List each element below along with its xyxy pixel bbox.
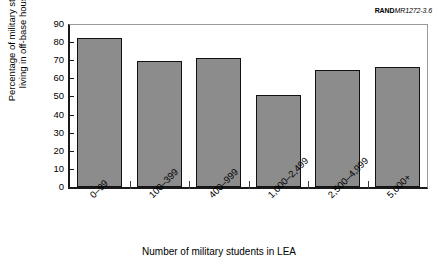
y-axis-tick-label: 30 [40, 128, 64, 138]
x-axis-tick-mark [189, 181, 190, 189]
x-axis-tick-mark [308, 181, 309, 189]
rand-figure-id-number: MR1272-3.6 [394, 7, 432, 14]
bar [77, 38, 122, 187]
y-axis-tick-label: 60 [40, 74, 64, 84]
bar-slot [130, 24, 190, 187]
y-axis-tick-label: 20 [40, 146, 64, 156]
y-axis-tick-label: 70 [40, 55, 64, 65]
y-axis-title: Percentage of military students living i… [0, 0, 34, 122]
bar-slot [189, 24, 249, 187]
bar-chart-figure: RANDMR1272-3.6 Percentage of military st… [0, 0, 438, 264]
x-axis-tick-mark [368, 181, 369, 189]
rand-figure-id-mark: RAND [375, 7, 395, 14]
y-axis-title-line-1: Percentage of military students [6, 0, 18, 101]
y-axis-tick-label: 40 [40, 110, 64, 120]
y-axis-tick-label: 80 [40, 37, 64, 47]
bar-slot [70, 24, 130, 187]
y-axis-tick-label: 0 [40, 182, 64, 192]
y-axis-tick-label: 10 [40, 164, 64, 174]
rand-figure-id: RANDMR1272-3.6 [375, 7, 432, 14]
bar-slot [368, 24, 428, 187]
x-axis-title: Number of military students in LEA [0, 246, 438, 258]
y-axis-tick-label: 50 [40, 92, 64, 102]
x-axis-tick-mark [249, 181, 250, 189]
y-axis-tick-label: 90 [40, 19, 64, 29]
bar [375, 67, 420, 187]
x-axis-tick-mark [130, 181, 131, 189]
bar-series [70, 24, 427, 187]
y-axis-title-line-2: living in off-base housing [17, 0, 29, 88]
